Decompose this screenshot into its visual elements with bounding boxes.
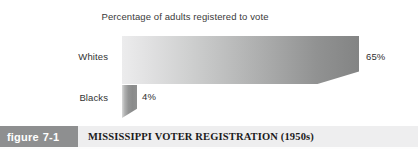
chart-title: Percentage of adults registered to vote [0,11,418,22]
bar-blacks-fill [122,85,137,118]
figure-caption-band: figure 7-1 MISSISSIPPI VOTER REGISTRATIO… [0,126,418,147]
value-label-blacks: 4% [142,91,156,102]
bar-whites [122,36,359,84]
category-label-blacks: Blacks [0,92,108,103]
value-label-whites: 65% [366,51,385,62]
bar-whites-fill [122,36,359,84]
figure-7-1: Percentage of adults registered to vote … [0,0,418,149]
figure-caption-text: MISSISSIPPI VOTER REGISTRATION (1950s) [88,126,314,147]
bar-blacks [122,85,137,118]
figure-tag-number: 7-1 [43,131,60,143]
figure-tag-word: figure [7,131,39,143]
bar-chart-plot-area: Whites 65% Blacks 4% [0,30,418,122]
figure-number-tag: figure 7-1 [0,126,78,147]
category-label-whites: Whites [0,51,108,62]
scan-edge [0,147,418,149]
